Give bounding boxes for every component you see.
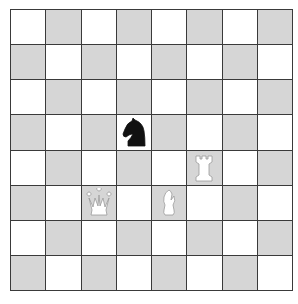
chess-board (10, 9, 293, 291)
square-d4[interactable] (117, 151, 151, 185)
square-f2[interactable] (187, 221, 221, 255)
square-e6[interactable] (152, 80, 186, 114)
square-d8[interactable] (117, 10, 151, 44)
square-a2[interactable] (11, 221, 45, 255)
square-h3[interactable] (258, 186, 292, 220)
square-d2[interactable] (117, 221, 151, 255)
square-g5[interactable] (223, 115, 257, 149)
square-f8[interactable] (187, 10, 221, 44)
square-d6[interactable] (117, 80, 151, 114)
square-c6[interactable] (82, 80, 116, 114)
square-h2[interactable] (258, 221, 292, 255)
square-g7[interactable] (223, 45, 257, 79)
white-bishop-icon[interactable] (155, 188, 183, 218)
square-c3[interactable] (82, 186, 116, 220)
white-queen-icon[interactable] (85, 188, 113, 218)
square-b3[interactable] (46, 186, 80, 220)
square-g1[interactable] (223, 256, 257, 290)
square-b1[interactable] (46, 256, 80, 290)
square-a3[interactable] (11, 186, 45, 220)
square-h5[interactable] (258, 115, 292, 149)
square-d1[interactable] (117, 256, 151, 290)
square-e7[interactable] (152, 45, 186, 79)
square-b2[interactable] (46, 221, 80, 255)
square-g2[interactable] (223, 221, 257, 255)
square-b6[interactable] (46, 80, 80, 114)
black-knight-icon[interactable] (120, 117, 148, 147)
square-e5[interactable] (152, 115, 186, 149)
square-a7[interactable] (11, 45, 45, 79)
square-a8[interactable] (11, 10, 45, 44)
square-c7[interactable] (82, 45, 116, 79)
square-f1[interactable] (187, 256, 221, 290)
square-b7[interactable] (46, 45, 80, 79)
square-h8[interactable] (258, 10, 292, 44)
square-d5[interactable] (117, 115, 151, 149)
square-h1[interactable] (258, 256, 292, 290)
square-c4[interactable] (82, 151, 116, 185)
square-f4[interactable] (187, 151, 221, 185)
square-f6[interactable] (187, 80, 221, 114)
square-c5[interactable] (82, 115, 116, 149)
square-b8[interactable] (46, 10, 80, 44)
square-c2[interactable] (82, 221, 116, 255)
square-d7[interactable] (117, 45, 151, 79)
square-f3[interactable] (187, 186, 221, 220)
square-e1[interactable] (152, 256, 186, 290)
square-e3[interactable] (152, 186, 186, 220)
square-d3[interactable] (117, 186, 151, 220)
square-b4[interactable] (46, 151, 80, 185)
square-h6[interactable] (258, 80, 292, 114)
square-e4[interactable] (152, 151, 186, 185)
square-f5[interactable] (187, 115, 221, 149)
square-c8[interactable] (82, 10, 116, 44)
square-f7[interactable] (187, 45, 221, 79)
square-c1[interactable] (82, 256, 116, 290)
square-a5[interactable] (11, 115, 45, 149)
square-g3[interactable] (223, 186, 257, 220)
square-g6[interactable] (223, 80, 257, 114)
square-e8[interactable] (152, 10, 186, 44)
square-b5[interactable] (46, 115, 80, 149)
square-e2[interactable] (152, 221, 186, 255)
square-a6[interactable] (11, 80, 45, 114)
square-g4[interactable] (223, 151, 257, 185)
square-a4[interactable] (11, 151, 45, 185)
square-h7[interactable] (258, 45, 292, 79)
white-rook-icon[interactable] (190, 153, 218, 183)
square-g8[interactable] (223, 10, 257, 44)
square-h4[interactable] (258, 151, 292, 185)
square-a1[interactable] (11, 256, 45, 290)
